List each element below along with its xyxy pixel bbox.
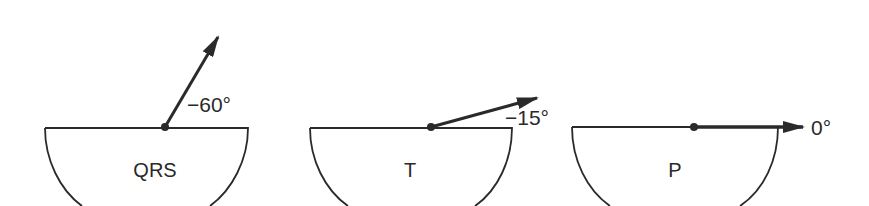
- angle-label: −60°: [187, 93, 231, 116]
- panel-label: P: [668, 159, 681, 181]
- origin-dot: [161, 123, 169, 131]
- panel-p: 0° P: [572, 116, 831, 206]
- axis-diagram: −60° QRS −15° T 0° P: [0, 0, 869, 206]
- panel-qrs: −60° QRS: [45, 37, 248, 206]
- panel-t: −15° T: [310, 98, 549, 206]
- origin-dot: [690, 123, 698, 131]
- panel-label: QRS: [133, 159, 176, 181]
- angle-label: 0°: [811, 116, 831, 139]
- panel-label: T: [404, 159, 416, 181]
- origin-dot: [427, 123, 435, 131]
- angle-label: −15°: [505, 106, 549, 129]
